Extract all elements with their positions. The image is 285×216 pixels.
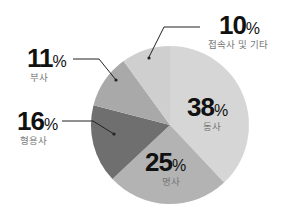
label-other: 10% 접속사 및 기타 — [210, 12, 268, 50]
pct-adjective: 16% — [17, 108, 57, 134]
percent-sign: % — [44, 116, 57, 133]
category-verb: 동사 — [197, 122, 227, 132]
pct-other: 10% — [210, 12, 268, 38]
pct-verb: 38% — [187, 94, 227, 120]
percent-sign: % — [53, 53, 66, 70]
label-noun: 25% 명사 — [145, 149, 185, 187]
value-adjective: 16 — [17, 106, 44, 136]
percent-sign: % — [246, 20, 259, 37]
percent-sign: % — [214, 102, 227, 119]
value-noun: 25 — [145, 147, 172, 177]
label-verb: 38% 동사 — [187, 94, 227, 132]
value-adverb: 11 — [27, 43, 53, 73]
label-adjective: 16% 형용사 — [17, 108, 57, 146]
pct-adverb: 11% — [27, 45, 66, 71]
value-verb: 38 — [187, 92, 214, 122]
leader-dot-adverb — [114, 78, 117, 81]
category-adverb: 부사 — [30, 73, 66, 83]
percent-sign: % — [172, 157, 185, 174]
leader-dot-other — [147, 56, 150, 59]
value-other: 10 — [219, 10, 246, 40]
category-adjective: 형용사 — [20, 136, 57, 146]
pct-noun: 25% — [145, 149, 185, 175]
category-noun: 명사 — [157, 177, 185, 187]
category-other: 접속사 및 기타 — [208, 40, 268, 50]
label-adverb: 11% 부사 — [27, 45, 66, 83]
leader-dot-adjective — [112, 132, 115, 135]
